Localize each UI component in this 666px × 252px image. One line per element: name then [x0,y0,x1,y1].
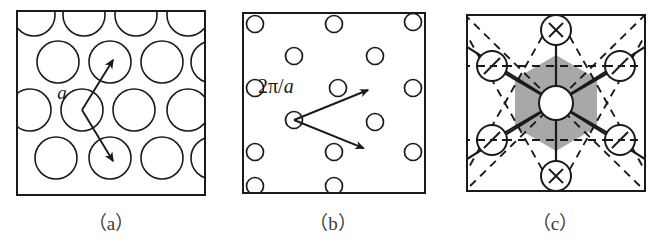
lattice-circle [115,0,157,36]
reciprocal-lattice-circle [367,114,384,131]
lattice-circle [167,0,209,36]
lattice-circle [113,89,155,131]
panel-c-caption: （c） [444,208,666,235]
lattice-circle [141,137,183,179]
lattice-figure: a （a） [0,0,666,252]
lattice-circle [13,0,55,36]
satellite-circle-upper-right [605,51,635,81]
lattice-constant-label: a [57,82,67,103]
panel-b-basis-vectors [294,90,368,148]
satellite-circle-lower-left [477,125,507,155]
reciprocal-vector-arrow-upper [294,90,368,120]
reciprocal-constant-label: 2π/a [258,75,294,97]
panel-b-reciprocal-lattice: 2π/a （b） [222,0,444,252]
panel-a-basis-vectors [82,60,113,161]
reciprocal-lattice-circle [326,144,343,161]
panel-a-circle-lattice [9,0,222,179]
lattice-circle [191,137,222,179]
label-denominator: a [284,75,294,97]
reciprocal-lattice-circle [247,178,264,195]
basis-vector-arrow-lower [82,110,113,161]
lattice-circle [37,41,79,83]
reciprocal-lattice-circle [326,16,343,33]
satellite-circle-bottom [541,161,571,191]
satellite-circle-lower-right [605,125,635,155]
lattice-circle [141,41,183,83]
panel-c-brillouin-zone: （c） [444,0,666,252]
satellite-circle-upper-left [477,51,507,81]
panel-a-caption: （a） [0,208,222,235]
reciprocal-lattice-circle [405,14,422,31]
label-numerator: 2π [258,75,278,97]
basis-vector-arrow-upper [82,60,113,110]
lattice-circle [89,41,131,83]
reciprocal-lattice-circle [326,178,343,195]
lattice-circle [9,89,51,131]
reciprocal-vector-arrow-lower [294,120,364,148]
panel-b-caption: （b） [222,208,444,235]
lattice-circle [167,89,209,131]
satellite-circle-top [541,15,571,45]
reciprocal-lattice-circle [330,80,347,97]
panel-a-real-space-lattice: a （a） [0,0,222,252]
panel-a-frame [17,11,205,195]
lattice-circle [191,41,222,83]
lattice-circle [35,137,77,179]
reciprocal-lattice-circle [286,48,303,65]
lattice-circle [89,137,131,179]
reciprocal-lattice-circle [247,144,264,161]
reciprocal-lattice-circle [247,16,264,33]
reciprocal-lattice-circle [367,48,384,65]
reciprocal-lattice-circle [405,144,422,161]
lattice-circle [63,0,105,36]
gamma-point-circle [539,86,573,120]
reciprocal-lattice-circle [405,80,422,97]
